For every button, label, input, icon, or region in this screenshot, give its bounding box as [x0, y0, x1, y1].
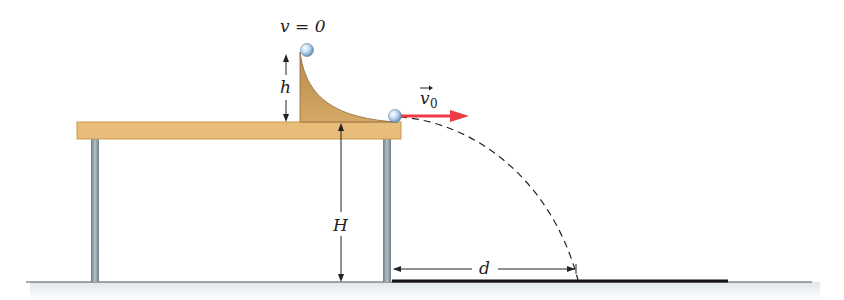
diagram-canvas: v = 0 h v 0 H d: [0, 0, 844, 300]
svg-text:v: v: [420, 88, 430, 108]
ground: [26, 281, 820, 300]
velocity-arrow: [400, 110, 469, 122]
ball-top: [301, 44, 314, 57]
table-top: [77, 122, 401, 139]
label-h: h: [280, 77, 291, 97]
label-H: H: [332, 215, 349, 235]
svg-text:0: 0: [430, 97, 438, 111]
H-dimension: [338, 123, 344, 282]
label-d: d: [479, 258, 490, 278]
trajectory-path: [400, 117, 578, 280]
ramp: [300, 52, 395, 122]
table-leg-right: [383, 139, 391, 282]
ball-launch: [389, 110, 402, 123]
table-leg-left: [91, 139, 99, 282]
label-v0: v 0: [420, 86, 438, 112]
label-v-top: v = 0: [280, 16, 326, 36]
projectile-diagram: v = 0 h v 0 H d: [0, 0, 844, 300]
